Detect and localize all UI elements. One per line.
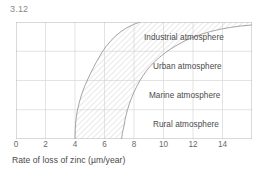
x-axis-tick-labels: 0 2 4 6 8 10 12 14: [0, 140, 262, 152]
x-tick-0: 0: [8, 140, 24, 149]
band-label-rural: Rural atmosphere: [153, 120, 219, 129]
x-tick-8: 8: [126, 140, 142, 149]
x-tick-14: 14: [215, 140, 231, 149]
chart-plot-area: Industrial atmosphere Urban atmosphere M…: [16, 22, 252, 139]
band-label-marine: Marine atmosphere: [149, 91, 220, 100]
figure-root: 3.12: [0, 0, 262, 182]
x-tick-4: 4: [67, 140, 83, 149]
x-tick-10: 10: [156, 140, 172, 149]
band-label-urban: Urban atmosphere: [153, 62, 222, 71]
x-tick-12: 12: [185, 140, 201, 149]
figure-number: 3.12: [10, 4, 28, 14]
band-label-industrial: Industrial atmosphere: [144, 33, 224, 42]
x-axis-title: Rate of loss of zinc (µm/year): [12, 155, 125, 165]
x-tick-6: 6: [97, 140, 113, 149]
x-tick-2: 2: [38, 140, 54, 149]
